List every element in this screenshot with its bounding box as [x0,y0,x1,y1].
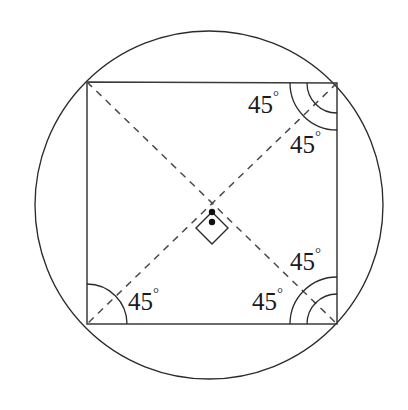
angle-label-bottom-right-lower: 45° [252,285,283,314]
angle-label-bottom-right-upper: 45° [290,245,321,274]
center-point-dot [209,219,215,225]
geometry-figure: 45° 45° 45° 45° 45° [0,0,408,410]
angle-label-bottom-left: 45° [128,285,159,314]
angle-label-top-right-lower: 45° [290,128,321,157]
angle-label-top-right-upper: 45° [248,88,279,117]
angle-arc-top-right-outer [290,83,337,130]
figure-canvas: 45° 45° 45° 45° 45° [0,0,408,410]
intersection-dot [209,209,215,215]
right-angle-marker [196,212,228,244]
